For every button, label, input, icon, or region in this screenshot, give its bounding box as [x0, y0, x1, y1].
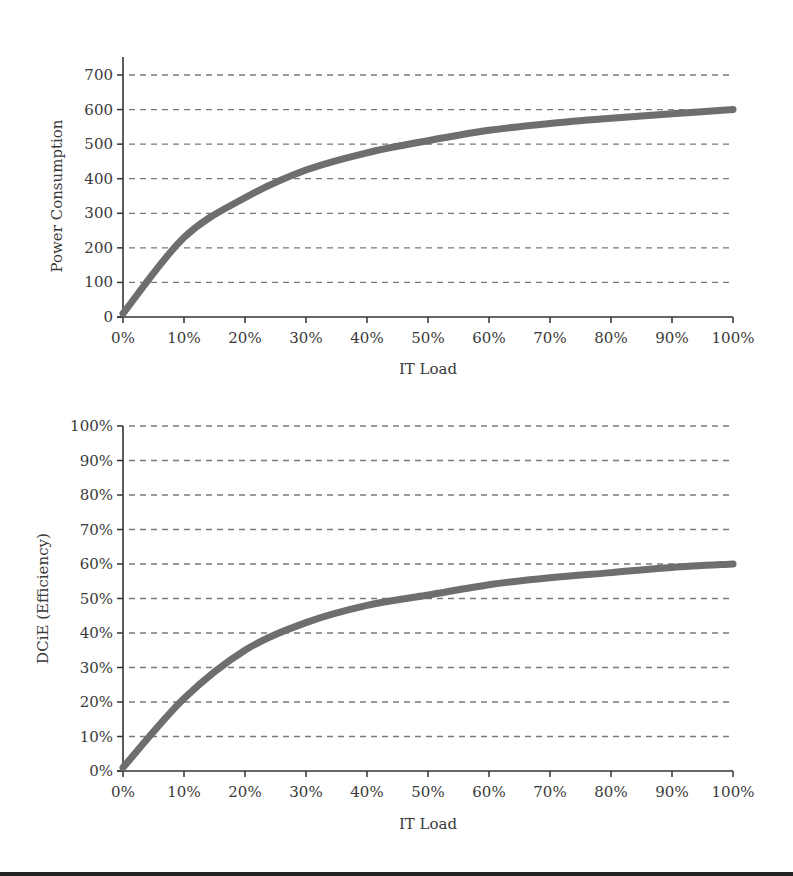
- x-tick-label: 100%: [712, 783, 755, 801]
- y-tick-label: 80%: [80, 486, 113, 504]
- y-axis-title: DCiE (Efficiency): [34, 533, 52, 664]
- x-tick-label: 30%: [289, 329, 322, 347]
- x-tick-label: 90%: [655, 783, 688, 801]
- x-tick-label: 80%: [594, 329, 627, 347]
- x-tick-label: 40%: [350, 329, 383, 347]
- y-tick-label: 500: [84, 135, 113, 153]
- y-tick-label: 600: [84, 101, 113, 119]
- y-tick-label: 0: [103, 308, 113, 326]
- x-tick-label: 90%: [655, 329, 688, 347]
- x-tick-label: 50%: [411, 783, 444, 801]
- y-tick-label: 200: [84, 239, 113, 257]
- x-tick-label: 70%: [533, 329, 566, 347]
- x-tick-label: 10%: [167, 783, 200, 801]
- y-tick-label: 40%: [80, 624, 113, 642]
- x-tick-label: 20%: [228, 329, 261, 347]
- power-consumption-chart: 01002003004005006007000%10%20%30%40%50%6…: [48, 57, 754, 378]
- x-tick-label: 50%: [411, 329, 444, 347]
- y-tick-label: 0%: [89, 762, 113, 780]
- x-tick-label: 80%: [594, 783, 627, 801]
- charts-canvas: 01002003004005006007000%10%20%30%40%50%6…: [0, 0, 793, 876]
- x-tick-label: 60%: [472, 329, 505, 347]
- x-axis-title: IT Load: [399, 815, 458, 833]
- page-bottom-border: [0, 872, 793, 876]
- y-tick-label: 10%: [80, 728, 113, 746]
- y-tick-label: 70%: [80, 521, 113, 539]
- y-tick-label: 50%: [80, 590, 113, 608]
- y-tick-label: 400: [84, 170, 113, 188]
- y-tick-label: 20%: [80, 693, 113, 711]
- y-tick-label: 100: [84, 273, 113, 291]
- y-tick-label: 60%: [80, 555, 113, 573]
- x-tick-label: 30%: [289, 783, 322, 801]
- x-tick-label: 100%: [712, 329, 755, 347]
- y-tick-label: 100%: [70, 417, 113, 435]
- y-tick-label: 300: [84, 204, 113, 222]
- y-tick-label: 90%: [80, 452, 113, 470]
- y-tick-label: 30%: [80, 659, 113, 677]
- x-tick-label: 0%: [111, 783, 135, 801]
- dcie-efficiency-chart: 0%10%20%30%40%50%60%70%80%90%100%0%10%20…: [34, 417, 754, 833]
- y-tick-label: 700: [84, 66, 113, 84]
- x-tick-label: 0%: [111, 329, 135, 347]
- x-tick-label: 60%: [472, 783, 505, 801]
- x-tick-label: 10%: [167, 329, 200, 347]
- x-tick-label: 70%: [533, 783, 566, 801]
- y-axis-title: Power Consumption: [48, 119, 66, 272]
- x-axis-title: IT Load: [399, 360, 458, 378]
- x-tick-label: 20%: [228, 783, 261, 801]
- x-tick-label: 40%: [350, 783, 383, 801]
